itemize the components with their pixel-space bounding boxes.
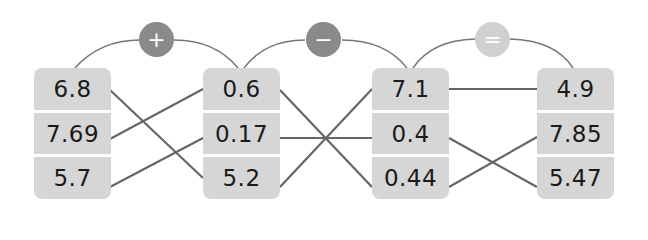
number-card[interactable]: 0.6 bbox=[203, 68, 280, 110]
column-4: 4.9 7.85 5.47 bbox=[537, 68, 614, 199]
column-2: 0.6 0.17 5.2 bbox=[203, 68, 280, 199]
plus-operator-icon: + bbox=[139, 22, 174, 57]
number-card[interactable]: 0.44 bbox=[372, 157, 449, 199]
number-card[interactable]: 7.69 bbox=[34, 113, 111, 154]
number-card[interactable]: 7.85 bbox=[537, 113, 614, 154]
number-card[interactable]: 0.4 bbox=[372, 113, 449, 154]
number-card[interactable]: 5.2 bbox=[203, 157, 280, 199]
equals-operator-icon: = bbox=[475, 22, 510, 57]
number-card[interactable]: 0.17 bbox=[203, 113, 280, 154]
number-card[interactable]: 4.9 bbox=[537, 68, 614, 110]
number-card[interactable]: 5.47 bbox=[537, 157, 614, 199]
minus-operator-icon: − bbox=[306, 22, 341, 57]
column-3: 7.1 0.4 0.44 bbox=[372, 68, 449, 199]
number-card[interactable]: 5.7 bbox=[34, 157, 111, 199]
column-1: 6.8 7.69 5.7 bbox=[34, 68, 111, 199]
number-card[interactable]: 7.1 bbox=[372, 68, 449, 110]
number-card[interactable]: 6.8 bbox=[34, 68, 111, 110]
